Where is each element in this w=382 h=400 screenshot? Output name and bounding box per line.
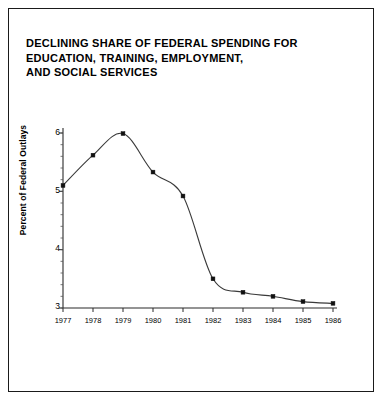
chart-canvas	[0, 0, 382, 400]
data-point-1979	[121, 132, 125, 136]
plot-area: Percent of Federal Outlays 6 5 4 3 1977 …	[0, 0, 382, 400]
y-axis-ticks	[59, 133, 63, 308]
chart-figure: DECLINING SHARE OF FEDERAL SPENDING FOR …	[0, 0, 382, 400]
data-point-1983	[241, 290, 245, 294]
data-point-1982	[211, 277, 215, 281]
data-markers	[61, 132, 335, 306]
data-point-1985	[301, 300, 305, 304]
data-point-1984	[271, 294, 275, 298]
data-line-series	[63, 133, 333, 303]
data-point-1981	[181, 194, 185, 198]
x-axis-ticks	[63, 308, 333, 312]
data-point-1986	[331, 301, 335, 305]
data-point-1977	[61, 184, 65, 188]
data-point-1980	[151, 170, 155, 174]
data-point-1978	[91, 153, 95, 157]
